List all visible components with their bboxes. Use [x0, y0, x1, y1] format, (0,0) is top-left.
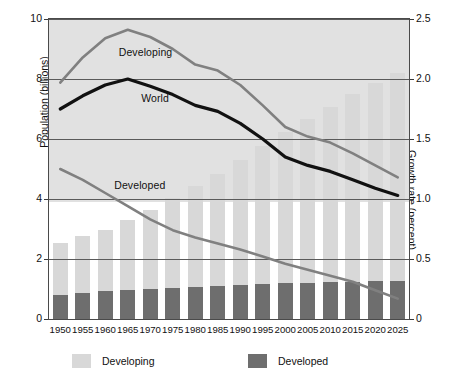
y-axis-left-tick-label: 4 — [12, 192, 42, 204]
series-label-world: World — [141, 92, 169, 104]
legend-label: Developed — [278, 355, 328, 367]
legend-swatch — [248, 354, 267, 368]
line-series-developed — [60, 169, 398, 299]
legend-swatch — [72, 354, 91, 368]
y-axis-right-tick-label: 1.5 — [416, 132, 450, 144]
legend-item[interactable]: Developing — [72, 354, 155, 368]
y-axis-left-tick-label: 0 — [12, 312, 42, 324]
y-axis-right-tick-label: 0.5 — [416, 252, 450, 264]
series-label-developed: Developed — [114, 179, 165, 191]
y-axis-left-tick-label: 6 — [12, 132, 42, 144]
line-series-developing — [60, 30, 398, 178]
legend-label: Developing — [102, 355, 155, 367]
x-axis-tick-label: 2025 — [381, 324, 415, 335]
legend-item[interactable]: Developed — [248, 354, 328, 368]
y-axis-left-tick-label: 10 — [12, 12, 42, 24]
y-axis-left-tick-label: 2 — [12, 252, 42, 264]
line-series-group — [49, 19, 409, 319]
line-series-world — [60, 79, 398, 195]
y-axis-right-tick-label: 2.0 — [416, 72, 450, 84]
y-axis-right-tick-label: 2.5 — [416, 12, 450, 24]
y-axis-right-tick-label: 1.0 — [416, 192, 450, 204]
series-label-developing: Developing — [119, 46, 173, 58]
y-axis-left-tick-label: 8 — [12, 72, 42, 84]
chart-legend: DevelopingDeveloped — [48, 352, 410, 372]
plot-area: DevelopingWorldDeveloped — [48, 18, 410, 320]
y-axis-right-tick-label: 0 — [416, 312, 450, 324]
chart-root: Population (billions) Growth rate (perce… — [0, 0, 468, 380]
